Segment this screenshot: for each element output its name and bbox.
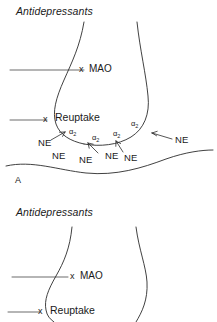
ne-label-5: NE (124, 153, 138, 163)
presynaptic-right-wall (84, 22, 148, 145)
reuptake-label: Reuptake (55, 112, 100, 123)
mao-label: MAO (89, 64, 112, 74)
panel-a-title: Antidepressants (16, 6, 93, 17)
ne-arrow-4 (152, 133, 172, 139)
ne-label-4: NE (105, 151, 119, 161)
presynaptic-left-wall (54, 22, 84, 144)
ne-label-6: NE (175, 135, 189, 145)
alpha2-subscript-1: 2 (73, 131, 76, 137)
alpha2-subscript-4: 2 (135, 123, 138, 129)
alpha2-receptor-label-4: α2 (131, 120, 138, 128)
mao-block-x-mark-b: x (70, 272, 75, 281)
presynaptic-right-wall-b (136, 227, 147, 322)
mao-block-x-mark: x (79, 65, 84, 74)
reuptake-block-x-mark: x (43, 115, 48, 124)
ne-label-3: NE (79, 155, 93, 165)
panel-b-title: Antidepressants (16, 207, 93, 218)
synapse-figure: Antidepressants x MAO x Reuptake α2 α2 α… (0, 0, 217, 322)
ne-label-2: NE (52, 151, 66, 161)
ne-label-1: NE (38, 138, 52, 148)
panel-a-identifier: A (15, 176, 21, 185)
alpha2-receptor-label-1: α2 (69, 128, 76, 136)
alpha2-subscript-2: 2 (96, 137, 99, 143)
figure-linework (0, 0, 217, 322)
reuptake-label-b: Reuptake (50, 305, 95, 316)
alpha2-receptor-label-2: α2 (92, 134, 99, 142)
reuptake-block-x-mark-b: x (38, 307, 43, 316)
alpha2-receptor-label-3: α2 (113, 130, 120, 138)
mao-label-b: MAO (80, 271, 103, 281)
alpha2-subscript-3: 2 (117, 133, 120, 139)
